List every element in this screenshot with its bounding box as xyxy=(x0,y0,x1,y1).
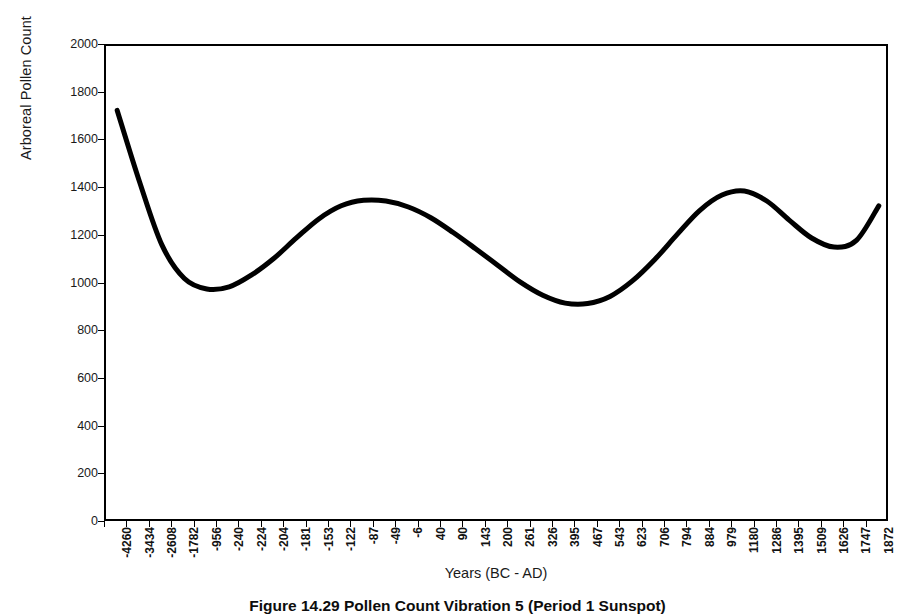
x-axis-tick-label: 395 xyxy=(568,527,582,547)
x-axis-tick-label: -6 xyxy=(411,527,425,538)
x-axis-tick-label: 623 xyxy=(635,527,649,547)
y-axis-tick-label: 200 xyxy=(52,466,98,480)
x-axis-tick-label: -3434 xyxy=(143,527,157,558)
x-axis-tick-label: -153 xyxy=(322,527,336,551)
y-axis-tick-label: 1200 xyxy=(52,228,98,242)
x-axis-tick-label: 1872 xyxy=(882,527,896,554)
x-axis-tick-label: 261 xyxy=(523,527,537,547)
x-axis-tick-label: 1747 xyxy=(859,527,873,554)
x-axis-tick-label: -122 xyxy=(344,527,358,551)
plot-area xyxy=(104,44,888,521)
x-axis-tick-label: -956 xyxy=(210,527,224,551)
y-axis-tick-label: 2000 xyxy=(52,37,98,51)
x-axis-tick-label: 1626 xyxy=(837,527,851,554)
x-axis-tick-label: -1782 xyxy=(187,527,201,558)
x-axis-tick-label: -240 xyxy=(232,527,246,551)
x-axis-tick-label: -49 xyxy=(389,527,403,544)
x-axis-tick-label: 794 xyxy=(680,527,694,547)
x-axis-tick-label: 90 xyxy=(456,527,470,540)
x-axis-tick-label: 1509 xyxy=(815,527,829,554)
x-axis-tick-label: 706 xyxy=(658,527,672,547)
y-axis-tick-label: 1600 xyxy=(52,132,98,146)
x-axis-title: Years (BC - AD) xyxy=(104,565,888,581)
y-axis-title: Arboreal Pollen Count xyxy=(18,0,40,160)
x-axis-tick-label: -204 xyxy=(277,527,291,551)
x-axis-tick-labels: -4260-3434-2608-1782-956-240-224-204-181… xyxy=(104,527,888,563)
y-axis-tick-label: 1800 xyxy=(52,85,98,99)
x-axis-tick-label: -87 xyxy=(367,527,381,544)
x-axis-tick-label: 143 xyxy=(479,527,493,547)
figure-container: Arboreal Pollen Count 020040060080010001… xyxy=(0,0,915,615)
figure-caption: Figure 14.29 Pollen Count Vibration 5 (P… xyxy=(0,597,915,615)
x-axis-tick-label: 200 xyxy=(501,527,515,547)
x-axis-tick-label: -224 xyxy=(255,527,269,551)
y-axis-tick-labels: 0200400600800100012001400160018002000 xyxy=(52,44,98,521)
pollen-count-line-chart xyxy=(106,46,890,523)
x-axis-tick-label: 543 xyxy=(613,527,627,547)
y-axis-tick-label: 600 xyxy=(52,371,98,385)
x-axis-tick-label: 979 xyxy=(725,527,739,547)
x-axis-tick-label: 884 xyxy=(703,527,717,547)
y-axis-tick-label: 1000 xyxy=(52,276,98,290)
y-axis-tick-label: 800 xyxy=(52,323,98,337)
x-axis-tick-label: 40 xyxy=(434,527,448,540)
x-axis-tick-label: 467 xyxy=(591,527,605,547)
x-axis-tick-label: 326 xyxy=(546,527,560,547)
x-axis-tick-label: -4260 xyxy=(120,527,134,558)
x-axis-tick-label: 1286 xyxy=(770,527,784,554)
x-axis-tick-label: -181 xyxy=(299,527,313,551)
y-axis-tick-label: 400 xyxy=(52,419,98,433)
x-axis-tick-label: 1395 xyxy=(792,527,806,554)
series-line-arboreal-pollen-count xyxy=(117,110,879,304)
x-axis-tick-label: 1180 xyxy=(747,527,761,553)
x-axis-tick-label: -2608 xyxy=(165,527,179,558)
y-axis-tick-label: 1400 xyxy=(52,180,98,194)
y-axis-tick-label: 0 xyxy=(52,514,98,528)
